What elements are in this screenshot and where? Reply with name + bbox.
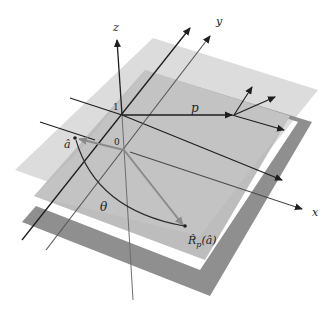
a-hat-label: â [64, 138, 71, 151]
p-label: p [191, 101, 199, 115]
reflected-argument: (â) [201, 234, 216, 247]
x-axis-label: x [312, 206, 319, 219]
reflected-label: R̂p(â) [187, 234, 217, 249]
height-zero-label: 0 [114, 137, 120, 147]
diagram-canvas: z y x p â θ 1 0 R̂p(â) [0, 0, 336, 313]
a-hat-point [73, 136, 77, 140]
reflected-R: R̂ [187, 234, 196, 247]
y-axis-label: y [215, 15, 223, 28]
theta-label: θ [100, 200, 108, 214]
z-axis-label: z [112, 21, 119, 34]
height-one-label: 1 [113, 102, 119, 112]
